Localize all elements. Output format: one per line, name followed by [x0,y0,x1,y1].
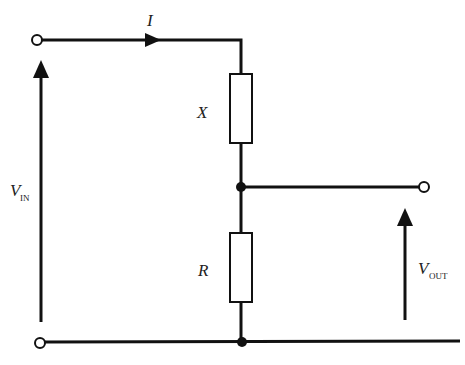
current-label: I [146,11,154,30]
output-terminal [419,182,429,192]
vin-subscript: IN [20,193,30,203]
component-x [230,74,252,143]
current-arrow-icon [145,33,161,47]
component-x-label: X [196,103,208,122]
bottom-wire [45,341,460,342]
component-r-label: R [197,261,209,280]
component-r [230,233,252,302]
circuit-diagram: I X R V IN V OUT [0,0,465,365]
input-bottom-terminal [35,338,45,348]
vin-arrowhead-icon [33,60,49,78]
vout-arrowhead-icon [397,208,413,226]
top-wire [42,40,241,74]
vout-subscript: OUT [429,271,448,281]
ground-junction-dot [237,337,247,347]
input-top-terminal [32,35,42,45]
